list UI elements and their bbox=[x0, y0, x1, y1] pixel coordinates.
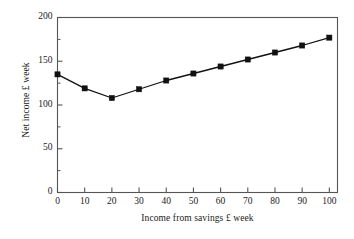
chart-figure: Net income £ week Income from savings £ … bbox=[0, 0, 354, 239]
x-tick-label: 50 bbox=[181, 196, 205, 206]
y-tick-label: 50 bbox=[27, 142, 53, 152]
x-tick-label: 80 bbox=[263, 196, 287, 206]
x-tick-label: 100 bbox=[317, 196, 341, 206]
y-axis-ticks bbox=[58, 18, 63, 193]
x-tick-label: 40 bbox=[154, 196, 178, 206]
x-tick-label: 70 bbox=[236, 196, 260, 206]
y-tick-label: 0 bbox=[27, 186, 53, 196]
y-tick-label: 100 bbox=[27, 99, 53, 109]
x-axis-title: Income from savings £ week bbox=[57, 213, 338, 223]
data-line bbox=[58, 38, 330, 98]
data-markers bbox=[55, 35, 332, 101]
x-axis-ticks bbox=[58, 188, 330, 193]
x-tick-label: 20 bbox=[100, 196, 124, 206]
y-tick-label: 200 bbox=[27, 11, 53, 21]
x-tick-label: 90 bbox=[290, 196, 314, 206]
x-tick-label: 30 bbox=[127, 196, 151, 206]
x-tick-label: 10 bbox=[73, 196, 97, 206]
x-tick-label: 60 bbox=[209, 196, 233, 206]
axes-frame bbox=[58, 18, 338, 193]
x-tick-label: 0 bbox=[46, 196, 70, 206]
y-tick-label: 150 bbox=[27, 55, 53, 65]
